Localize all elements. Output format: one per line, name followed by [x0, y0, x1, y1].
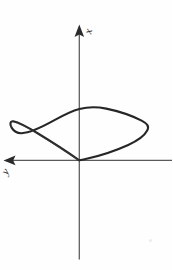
scan-speck-artifact — [149, 239, 152, 242]
figure-canvas: x y — [0, 0, 172, 270]
horizontal-axis — [4, 156, 173, 166]
plot-svg — [0, 0, 172, 270]
loop-curve-shadow-path — [11, 122, 79, 160]
vertical-axis — [75, 25, 85, 260]
